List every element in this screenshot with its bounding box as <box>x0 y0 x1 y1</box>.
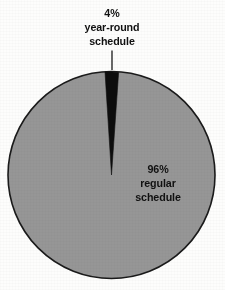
pie-label-year-round-line3: schedule <box>85 34 140 48</box>
pie-label-year-round-percent: 4% <box>85 6 140 20</box>
pie-label-regular-line3: schedule <box>135 190 181 204</box>
pie-label-year-round-schedule: 4% year-round schedule <box>85 6 140 49</box>
pie-chart-figure: 4% year-round schedule 96% regular sched… <box>0 0 225 290</box>
pie-label-regular-schedule: 96% regular schedule <box>135 162 181 205</box>
pie-label-regular-line2: regular <box>135 176 181 190</box>
pie-label-regular-percent: 96% <box>135 162 181 176</box>
pie-label-year-round-line2: year-round <box>85 20 140 34</box>
